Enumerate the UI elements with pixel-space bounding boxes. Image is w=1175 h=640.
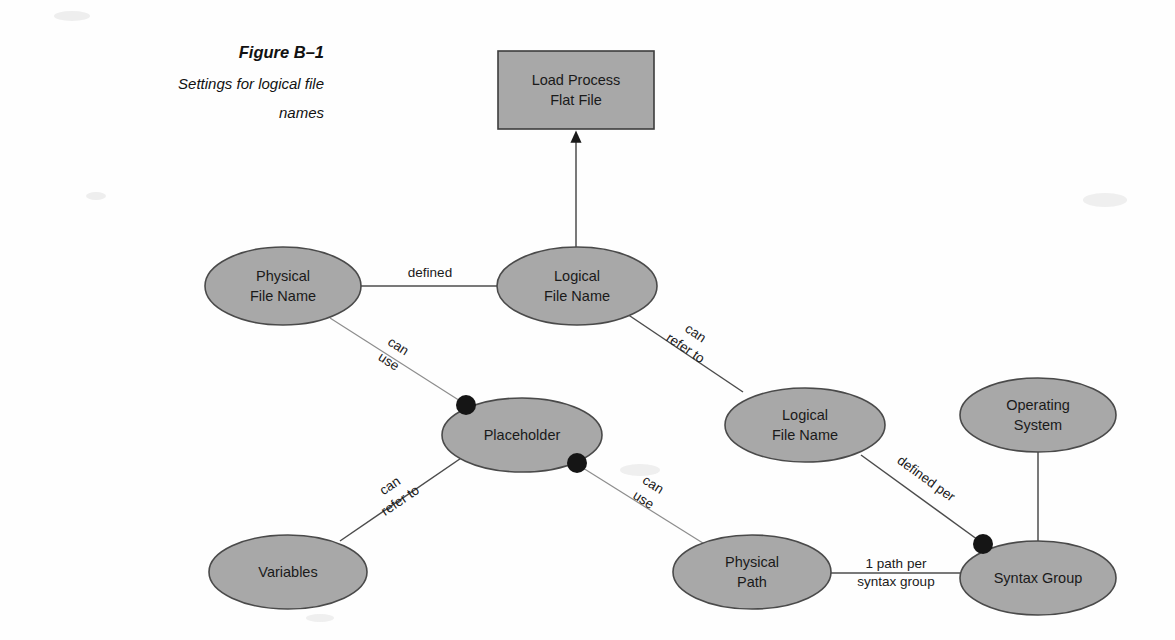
physical-file-name-label-line2: File Name <box>250 288 316 304</box>
logical-file-name-mid-ellipse <box>725 388 885 462</box>
operating-system-label-line2: System <box>1014 417 1062 433</box>
variables-label: Variables <box>258 564 317 580</box>
edge-label-path-syntax-line2: syntax group <box>857 574 934 589</box>
node-physical-path[interactable]: Physical Path <box>673 535 831 609</box>
edge-label-defined: defined <box>408 265 452 280</box>
edge-label-pfn-to-placeholder: can use <box>376 334 412 374</box>
figure-diagram: Figure B–1 Settings for logical file nam… <box>0 0 1175 640</box>
load-process-label-line1: Load Process <box>532 72 621 88</box>
node-logical-file-name-top[interactable]: Logical File Name <box>497 247 657 325</box>
edge-label-lfn-to-lfn: can refer to <box>664 315 718 366</box>
physical-path-label-line1: Physical <box>725 554 779 570</box>
caption-title: Figure B–1 <box>239 43 324 61</box>
edge-label-defined-text: defined <box>408 265 452 280</box>
node-operating-system[interactable]: Operating System <box>960 378 1116 452</box>
edge-label-path-syntax-line1: 1 path per <box>866 556 927 571</box>
edge-label-variables-to-placeholder: can refer to <box>368 467 422 518</box>
placeholder-label: Placeholder <box>484 427 561 443</box>
logical-file-name-mid-label-line1: Logical <box>782 407 828 423</box>
load-process-rect <box>498 51 654 129</box>
operating-system-ellipse <box>960 378 1116 452</box>
caption-subtitle-line2: names <box>279 104 325 121</box>
load-process-label-line2: Flat File <box>550 92 602 108</box>
physical-file-name-ellipse <box>205 247 361 325</box>
node-logical-file-name-mid[interactable]: Logical File Name <box>725 388 885 462</box>
diagram-canvas: Figure B–1 Settings for logical file nam… <box>0 0 1175 640</box>
junction-dot-placeholder-upper-left <box>456 395 476 415</box>
node-load-process-flat-file[interactable]: Load Process Flat File <box>498 51 654 129</box>
node-variables[interactable]: Variables <box>209 535 367 609</box>
edge-label-lfn-to-syntax: defined per <box>894 453 958 505</box>
physical-path-ellipse <box>673 535 831 609</box>
syntax-group-label: Syntax Group <box>994 570 1083 586</box>
logical-file-name-top-label-line2: File Name <box>544 288 610 304</box>
junction-dot-syntax-group-upper-left <box>973 534 993 554</box>
caption-subtitle-line1: Settings for logical file <box>178 75 324 92</box>
figure-caption: Figure B–1 Settings for logical file nam… <box>178 43 324 121</box>
operating-system-label-line1: Operating <box>1006 397 1070 413</box>
physical-file-name-label-line1: Physical <box>256 268 310 284</box>
physical-path-label-line2: Path <box>737 574 767 590</box>
junction-dot-placeholder-lower-right <box>567 453 587 473</box>
logical-file-name-mid-label-line2: File Name <box>772 427 838 443</box>
logical-file-name-top-label-line1: Logical <box>554 268 600 284</box>
edge-label-placeholder-to-path: can use <box>630 472 666 512</box>
logical-file-name-top-ellipse <box>497 247 657 325</box>
edge-label-defined-per-text: defined per <box>894 453 958 505</box>
node-physical-file-name[interactable]: Physical File Name <box>205 247 361 325</box>
